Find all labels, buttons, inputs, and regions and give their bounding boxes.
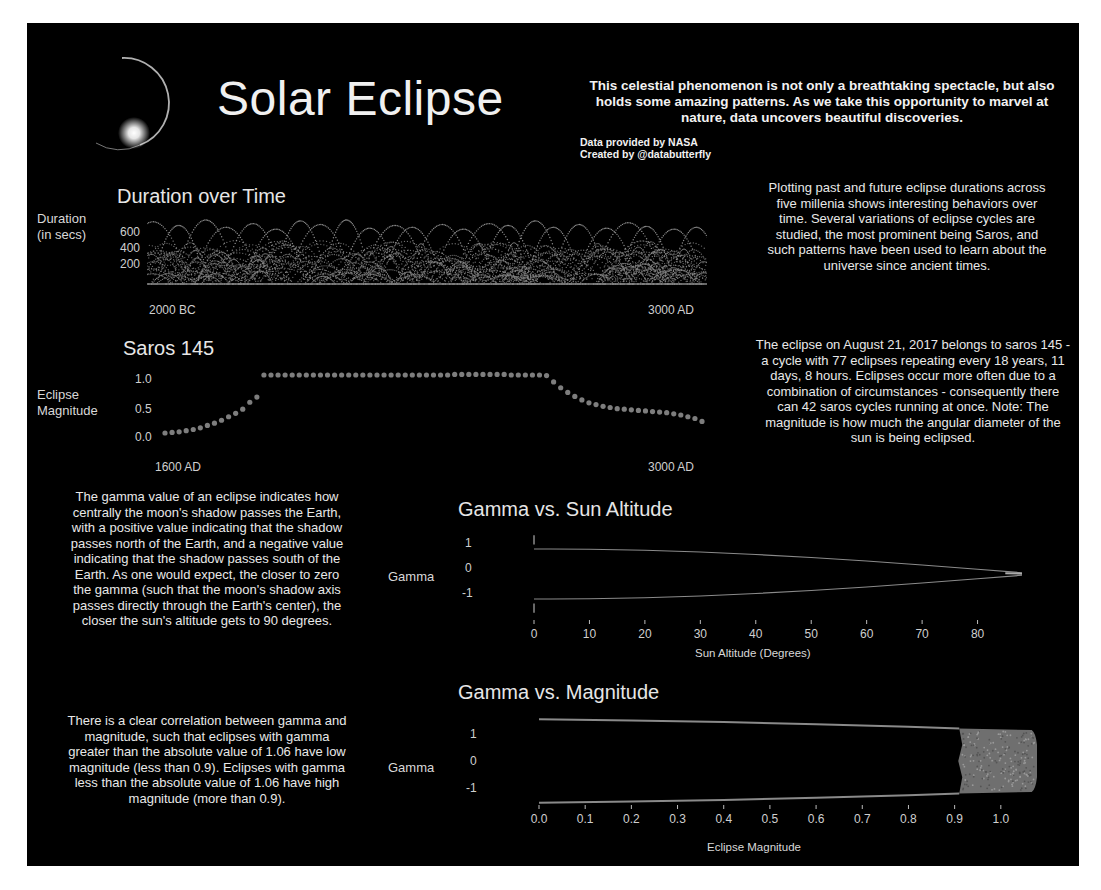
svg-text:0.5: 0.5	[762, 812, 779, 826]
svg-text:0.8: 0.8	[900, 812, 917, 826]
svg-text:0.4: 0.4	[715, 812, 732, 826]
duration-chart-title: Duration over Time	[117, 185, 286, 208]
svg-text:0.1: 0.1	[577, 812, 594, 826]
y-tick-neg1: -1	[466, 781, 477, 795]
svg-text:70: 70	[915, 627, 929, 638]
y-label-line1: Duration	[37, 211, 86, 227]
svg-text:0.6: 0.6	[808, 812, 825, 826]
y-tick-neg1: -1	[462, 586, 473, 600]
y-tick-1: 1	[465, 536, 472, 550]
svg-text:0.0: 0.0	[531, 812, 548, 826]
credit-data-source: Data provided by NASA	[580, 136, 698, 148]
magnitude-description: There is a clear correlation between gam…	[67, 713, 347, 806]
eclipse-diamond-ring-icon	[82, 53, 192, 153]
y-tick-0: 0.0	[135, 430, 152, 444]
gamma-description: The gamma value of an eclipse indicates …	[67, 489, 347, 629]
y-label-line2: Magnitude	[37, 403, 98, 419]
gamma-altitude-x-label: Sun Altitude (Degrees)	[695, 645, 811, 661]
gamma-altitude-title: Gamma vs. Sun Altitude	[458, 498, 673, 521]
svg-text:50: 50	[805, 627, 819, 638]
y-tick-200: 200	[120, 257, 140, 271]
y-tick-0: 0	[470, 754, 477, 768]
svg-text:0.3: 0.3	[669, 812, 686, 826]
intro-text: This celestial phenomenon is not only a …	[582, 78, 1062, 126]
saros-x-end: 3000 AD	[648, 460, 694, 474]
saros-y-label: Eclipse Magnitude	[37, 387, 98, 419]
saros-plot	[157, 368, 712, 443]
page-title: Solar Eclipse	[217, 71, 504, 126]
y-tick-400: 400	[120, 241, 140, 255]
y-tick-0: 0	[465, 561, 472, 575]
svg-text:0.9: 0.9	[946, 812, 963, 826]
saros-chart-title: Saros 145	[123, 337, 214, 360]
gamma-magnitude-y-label: Gamma	[388, 760, 434, 776]
svg-text:0.2: 0.2	[623, 812, 640, 826]
y-label-line1: Eclipse	[37, 387, 98, 403]
svg-text:30: 30	[694, 627, 708, 638]
y-tick-0-5: 0.5	[135, 402, 152, 416]
svg-text:0.7: 0.7	[854, 812, 871, 826]
duration-y-label: Duration (in secs)	[37, 211, 86, 243]
credit-author: Created by @databutterfly	[580, 148, 711, 160]
eclipse-infographic: Solar Eclipse This celestial phenomenon …	[27, 23, 1079, 866]
saros-x-start: 1600 AD	[155, 460, 201, 474]
duration-x-end: 3000 AD	[648, 303, 694, 317]
gamma-altitude-plot: 0102030405060708090	[497, 528, 1022, 638]
svg-text:60: 60	[860, 627, 874, 638]
y-tick-600: 600	[120, 225, 140, 239]
y-tick-1: 1	[470, 727, 477, 741]
svg-text:0: 0	[531, 627, 538, 638]
gamma-magnitude-title: Gamma vs. Magnitude	[458, 681, 659, 704]
svg-text:80: 80	[971, 627, 985, 638]
svg-text:1.0: 1.0	[992, 812, 1009, 826]
duration-description: Plotting past and future eclipse duratio…	[762, 180, 1052, 273]
gamma-magnitude-x-label: Eclipse Magnitude	[707, 839, 801, 855]
gamma-magnitude-plot: 0.00.10.20.30.40.50.60.70.80.91.01.1	[497, 711, 1037, 826]
duration-x-start: 2000 BC	[149, 303, 196, 317]
svg-text:20: 20	[638, 627, 652, 638]
y-tick-1: 1.0	[135, 372, 152, 386]
duration-plot	[147, 218, 707, 288]
svg-text:10: 10	[583, 627, 597, 638]
y-label-line2: (in secs)	[37, 227, 86, 243]
saros-description: The eclipse on August 21, 2017 belongs t…	[755, 337, 1071, 446]
svg-text:40: 40	[749, 627, 763, 638]
gamma-altitude-y-label: Gamma	[388, 569, 434, 585]
